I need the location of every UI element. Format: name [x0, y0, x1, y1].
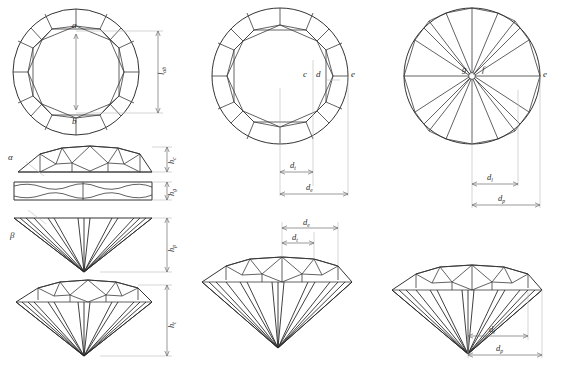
profile-table-pavilion-facets: [202, 282, 352, 348]
dimension-d-t-profile: dt: [292, 232, 298, 243]
dimension-h-p: hp: [166, 245, 177, 252]
panel-crown-plan: a b lab: [13, 9, 167, 135]
dimension-dp-profile: [468, 353, 542, 357]
dimension-d-l-plan: dl: [487, 172, 493, 183]
pavilion-height-dimension: [100, 218, 172, 272]
dimension-de-plan: [280, 192, 348, 196]
dimension-d-e-profile: de: [303, 217, 310, 228]
panel-girdle-profile: hg: [14, 182, 177, 200]
panel-profile-table-dims: de dt: [202, 217, 352, 348]
label-c: c: [303, 69, 307, 79]
label-e-pavilion: e: [543, 69, 547, 79]
diamond-geometry-figure: a b lab: [0, 0, 562, 366]
dimension-dl-plan: [472, 182, 518, 186]
label-alpha: α: [8, 152, 13, 162]
dimension-d-p-plan: dp: [498, 193, 505, 204]
panel-profile-pavilion-dims: dl dp: [392, 265, 542, 358]
crown-dimension-lab: [74, 31, 163, 113]
panel-table-plan: c d e dt de: [212, 8, 355, 196]
dimension-de-profile: [282, 226, 338, 230]
dimension-d-t-plan: dt: [290, 160, 296, 171]
label-beta: β: [9, 230, 15, 240]
panel-full-profile: ht: [16, 280, 177, 356]
profile-table-guides: [282, 222, 338, 266]
panel-pavilion-profile: β hp: [9, 210, 177, 272]
dimension-h-c: hc: [166, 157, 177, 164]
full-profile-crown-facets: [16, 280, 152, 302]
label-d: d: [316, 69, 321, 79]
dimension-d-p-profile: dp: [496, 343, 503, 354]
label-g: g: [462, 64, 467, 74]
dimension-h-t: ht: [166, 322, 177, 328]
label-b: b: [72, 116, 77, 126]
pavilion-profile-facets: [14, 218, 152, 272]
full-profile-pavilion-facets: [16, 302, 152, 356]
profile-pavilion-lower-facets: [392, 290, 542, 354]
dimension-dt-plan: [280, 170, 313, 174]
dimension-h-g: hg: [166, 189, 177, 196]
crown-height-dimension: [152, 147, 172, 172]
table-dimension-guides: [280, 60, 348, 196]
diagram-canvas: a b lab: [0, 0, 562, 366]
crown-angle-leader: [26, 162, 44, 176]
panel-pavilion-plan: g f e dl dp: [404, 8, 547, 208]
label-a: a: [72, 20, 77, 30]
dimension-dt-profile: [282, 241, 314, 245]
panel-crown-profile: α hc: [8, 146, 177, 176]
label-e-table: e: [351, 69, 355, 79]
profile-table-crown-facets: [202, 257, 352, 282]
label-f: f: [482, 64, 486, 74]
crown-profile-facets: [18, 146, 152, 172]
dimension-d-e-plan: de: [306, 182, 313, 193]
dimension-dp-plan: [472, 203, 540, 207]
profile-pavilion-crown-facets: [392, 265, 542, 290]
girdle-height-dimension: [152, 182, 172, 200]
